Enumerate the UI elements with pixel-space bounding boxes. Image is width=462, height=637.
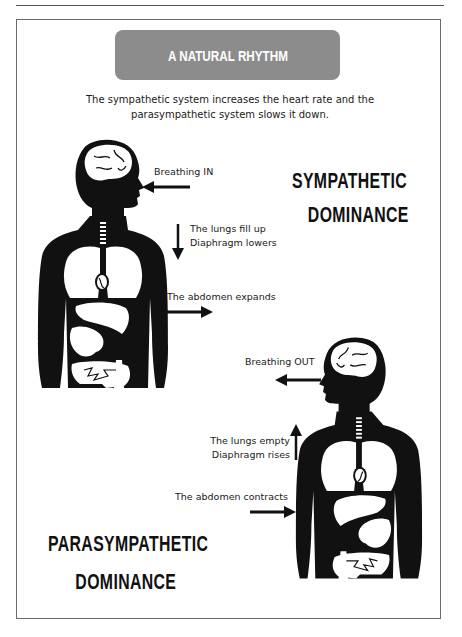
sympathetic-dominance-heading: SYMPATHETIC DOMINANCE <box>292 164 409 232</box>
lungs-fill-line-2: Diaphragm lowers <box>190 236 277 250</box>
sympathetic-heading-line-2: DOMINANCE <box>292 198 409 232</box>
human-body-anatomy-icon <box>292 332 424 586</box>
parasympathetic-heading-line-1: PARASYMPATHETIC <box>48 525 208 563</box>
breathing-out-label: Breathing OUT <box>245 355 315 369</box>
lungs-fill-line-1: The lungs fill up <box>190 222 277 236</box>
abdomen-contracts-label: The abdomen contracts <box>175 490 288 504</box>
lungs-empty-label: The lungs empty Diaphragm rises <box>198 434 290 462</box>
arrow-left-icon <box>275 374 323 386</box>
abdomen-expands-label: The abdomen expands <box>167 290 276 304</box>
arrow-left-icon <box>142 181 192 193</box>
intro-line-1: The sympathetic system increases the hea… <box>30 92 430 107</box>
arrow-right-icon <box>167 306 213 318</box>
page-top-rule <box>16 5 444 6</box>
breathing-in-label: Breathing IN <box>154 165 213 179</box>
parasympathetic-heading-line-2: DOMINANCE <box>48 563 208 601</box>
title-banner: A NATURAL RHYTHM <box>115 30 340 80</box>
arrow-up-icon <box>290 424 302 460</box>
parasympathetic-dominance-heading: PARASYMPATHETIC DOMINANCE <box>48 525 208 601</box>
title-text: A NATURAL RHYTHM <box>167 47 287 64</box>
lungs-empty-line-2: Diaphragm rises <box>198 448 290 462</box>
lungs-fill-label: The lungs fill up Diaphragm lowers <box>190 222 277 250</box>
sympathetic-heading-line-1: SYMPATHETIC <box>292 164 409 198</box>
human-body-anatomy-icon <box>36 138 172 392</box>
arrow-right-icon <box>250 506 296 518</box>
intro-text: The sympathetic system increases the hea… <box>30 92 430 122</box>
arrow-down-icon <box>172 224 184 260</box>
lungs-empty-line-1: The lungs empty <box>198 434 290 448</box>
intro-line-2: parasympathetic system slows it down. <box>30 107 430 122</box>
